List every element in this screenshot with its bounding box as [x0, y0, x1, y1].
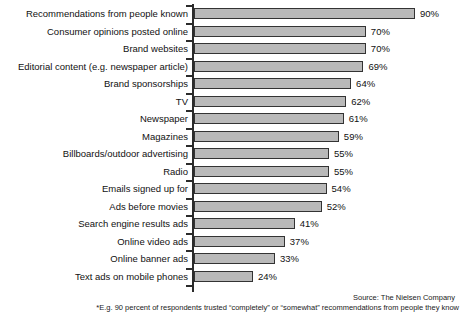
bar-category-label: Online video ads — [0, 235, 188, 248]
bar-row: Text ads on mobile phones24% — [0, 269, 463, 287]
bar-value-label: 61% — [349, 112, 368, 125]
axis-tick — [186, 110, 194, 112]
bar — [194, 201, 322, 212]
bar-row: Editorial content (e.g. newspaper articl… — [0, 59, 463, 77]
bar — [194, 148, 329, 159]
bar — [194, 113, 344, 124]
bar-value-label: 62% — [351, 95, 370, 108]
bar-row: Emails signed up for54% — [0, 181, 463, 199]
bar — [194, 218, 295, 229]
bar-category-label: Editorial content (e.g. newspaper articl… — [0, 60, 188, 73]
axis-tick — [186, 215, 194, 217]
footnote-text: *E.g. 90 percent of respondents trusted … — [0, 303, 459, 313]
bar-value-label: 70% — [371, 42, 390, 55]
chart-footer: Source: The Nielsen Company *E.g. 90 per… — [0, 293, 463, 313]
axis-tick — [186, 75, 194, 77]
bar-category-label: Brand websites — [0, 42, 188, 55]
bar-category-label: Text ads on mobile phones — [0, 270, 188, 283]
bar-chart: Recommendations from people known90%Cons… — [0, 0, 463, 321]
plot-area: Recommendations from people known90%Cons… — [0, 0, 463, 292]
axis-tick — [186, 163, 194, 165]
axis-tick — [186, 5, 194, 7]
bar-row: Newspaper61% — [0, 111, 463, 129]
axis-tick — [186, 93, 194, 95]
bar-category-label: TV — [0, 95, 188, 108]
bar-row: Radio55% — [0, 164, 463, 182]
bar-value-label: 69% — [368, 60, 387, 73]
bar-row: Search engine results ads41% — [0, 216, 463, 234]
bar-value-label: 33% — [280, 252, 299, 265]
bar — [194, 61, 363, 72]
bar-row: Ads before movies52% — [0, 199, 463, 217]
bar-row: Consumer opinions posted online70% — [0, 24, 463, 42]
axis-tick — [186, 198, 194, 200]
bar-rows: Recommendations from people known90%Cons… — [0, 6, 463, 304]
bar-row: Magazines59% — [0, 129, 463, 147]
bar-value-label: 64% — [356, 77, 375, 90]
axis-tick — [186, 128, 194, 130]
bar — [194, 236, 285, 247]
bar — [194, 271, 253, 282]
bar-value-label: 52% — [327, 200, 346, 213]
bar-row: Billboards/outdoor advertising55% — [0, 146, 463, 164]
bar-category-label: Recommendations from people known — [0, 7, 188, 20]
axis-tick — [186, 180, 194, 182]
bar — [194, 78, 351, 89]
axis-tick — [186, 58, 194, 60]
bar-value-label: 70% — [371, 25, 390, 38]
source-text: Source: The Nielsen Company — [0, 293, 455, 303]
bar-category-label: Radio — [0, 165, 188, 178]
axis-tick — [186, 233, 194, 235]
axis-tick — [186, 23, 194, 25]
bar-category-label: Consumer opinions posted online — [0, 25, 188, 38]
bar-row: Online video ads37% — [0, 234, 463, 252]
axis-tick — [186, 40, 194, 42]
bar — [194, 8, 415, 19]
bar-category-label: Ads before movies — [0, 200, 188, 213]
axis-tick — [186, 285, 194, 287]
bar-value-label: 55% — [334, 165, 353, 178]
axis-tick — [186, 250, 194, 252]
bar — [194, 43, 366, 54]
bar — [194, 183, 327, 194]
axis-tick — [186, 145, 194, 147]
bar — [194, 253, 275, 264]
bar-row: Brand websites70% — [0, 41, 463, 59]
bar-category-label: Brand sponsorships — [0, 77, 188, 90]
bar — [194, 26, 366, 37]
bar-category-label: Billboards/outdoor advertising — [0, 147, 188, 160]
bar-value-label: 24% — [258, 270, 277, 283]
bar — [194, 96, 346, 107]
bar-category-label: Emails signed up for — [0, 182, 188, 195]
bar-category-label: Magazines — [0, 130, 188, 143]
bar-value-label: 37% — [290, 235, 309, 248]
bar-value-label: 90% — [420, 7, 439, 20]
bar-value-label: 54% — [332, 182, 351, 195]
bar-category-label: Newspaper — [0, 112, 188, 125]
bar — [194, 131, 339, 142]
bar-category-label: Online banner ads — [0, 252, 188, 265]
bar-row: Brand sponsorships64% — [0, 76, 463, 94]
bar-value-label: 59% — [344, 130, 363, 143]
bar-category-label: Search engine results ads — [0, 217, 188, 230]
bar-value-label: 41% — [300, 217, 319, 230]
bar-value-label: 55% — [334, 147, 353, 160]
bar-row: Online banner ads33% — [0, 251, 463, 269]
axis-tick — [186, 268, 194, 270]
bar — [194, 166, 329, 177]
bar-row: TV62% — [0, 94, 463, 112]
bar-row: Recommendations from people known90% — [0, 6, 463, 24]
